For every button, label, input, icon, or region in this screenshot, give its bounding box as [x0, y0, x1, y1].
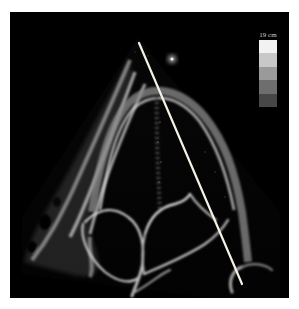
ultrasound-viewport: 19 cm — [10, 12, 289, 298]
marker-dot-core — [170, 57, 173, 60]
grayscale-band — [259, 67, 277, 80]
depth-label: 19 cm — [256, 31, 280, 39]
grayscale-band — [259, 94, 277, 107]
grayscale-band — [259, 40, 277, 53]
grayscale-band — [259, 53, 277, 66]
grayscale-band — [259, 80, 277, 93]
echocardiogram-image — [10, 12, 289, 298]
grayscale-bar — [259, 40, 277, 107]
